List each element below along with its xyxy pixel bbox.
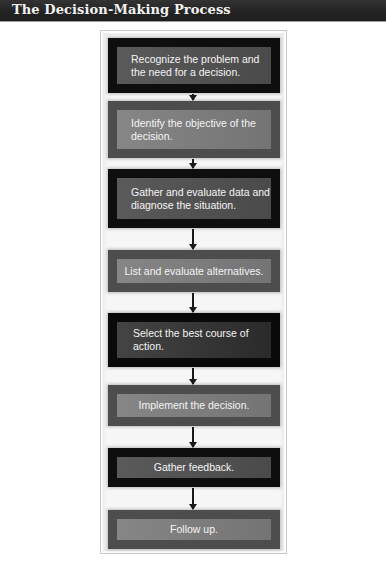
step-implement-decision: Implement the decision. [108, 385, 280, 426]
step-inner: Recognize the problem and the need for a… [117, 47, 271, 84]
step-label: Select the best course of action. [117, 327, 271, 353]
arrow-down-icon [192, 94, 194, 100]
step-inner: Follow up. [117, 519, 271, 540]
step-label: Gather and evaluate data and diagnose th… [117, 186, 271, 212]
step-label: Implement the decision. [117, 399, 271, 412]
title-bar: The Decision-Making Process [0, 0, 386, 22]
diagram-title: The Decision-Making Process [12, 2, 231, 17]
step-inner: Identify the objective of the decision. [117, 110, 271, 149]
step-inner: Select the best course of action. [117, 322, 271, 358]
step-label: Gather feedback. [117, 461, 271, 474]
step-select-course: Select the best course of action. [108, 313, 280, 367]
step-gather-data: Gather and evaluate data and diagnose th… [108, 169, 280, 228]
step-follow-up: Follow up. [108, 510, 280, 549]
step-identify-objective: Identify the objective of the decision. [108, 101, 280, 158]
step-label: Identify the objective of the decision. [117, 117, 271, 143]
step-label: List and evaluate alternatives. [117, 265, 271, 278]
arrow-down-icon [192, 293, 194, 312]
step-gather-feedback: Gather feedback. [108, 448, 280, 487]
arrow-down-icon [192, 159, 194, 168]
step-inner: Gather feedback. [117, 457, 271, 478]
arrow-down-icon [192, 427, 194, 447]
arrow-down-icon [192, 368, 194, 384]
step-list-alternatives: List and evaluate alternatives. [108, 250, 280, 292]
arrow-down-icon [192, 229, 194, 249]
step-label: Recognize the problem and the need for a… [117, 53, 271, 79]
step-inner: Implement the decision. [117, 394, 271, 417]
step-recognize-problem: Recognize the problem and the need for a… [108, 38, 280, 93]
step-label: Follow up. [117, 523, 271, 536]
step-inner: Gather and evaluate data and diagnose th… [117, 178, 271, 219]
step-inner: List and evaluate alternatives. [117, 259, 271, 283]
arrow-down-icon [192, 488, 194, 509]
